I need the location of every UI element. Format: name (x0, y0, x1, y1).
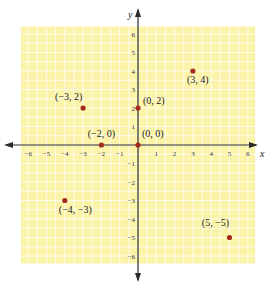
y-tick-label: 6 (132, 31, 136, 39)
y-tick-label: −3 (128, 197, 136, 205)
x-tick-label: 5 (228, 150, 232, 158)
y-tick-label: −4 (128, 216, 136, 224)
point-marker-icon (135, 142, 140, 147)
y-tick-label: −2 (128, 179, 136, 187)
y-tick-label: 4 (132, 68, 136, 76)
point-marker-icon (227, 235, 232, 240)
y-tick-label: −1 (128, 160, 136, 168)
y-tick-label: 5 (132, 49, 136, 57)
point-marker-icon (135, 105, 140, 110)
y-axis-label: y (127, 9, 133, 20)
x-tick-label: −4 (61, 150, 69, 158)
x-tick-label: 1 (155, 150, 159, 158)
y-axis-down-arrow-icon (135, 273, 141, 282)
x-axis-left-arrow-icon (4, 142, 13, 148)
y-tick-label: −6 (128, 253, 136, 261)
point-marker-icon (81, 105, 86, 110)
point-label: (−4, −3) (59, 204, 92, 216)
x-tick-label: −1 (116, 150, 124, 158)
x-axis-label: x (259, 148, 265, 159)
point-label: (3, 4) (187, 74, 209, 86)
coordinate-plane: xy −6−5−4−3−2−1123456−6−5−4−3−2−1123456 … (0, 0, 269, 288)
point-label: (−2, 0) (88, 128, 115, 140)
y-tick-label: 1 (132, 123, 136, 131)
y-axis-up-arrow-icon (135, 8, 141, 17)
point-label: (−3, 2) (55, 91, 82, 103)
y-tick-label: 2 (132, 105, 136, 113)
x-tick-label: −3 (79, 150, 87, 158)
point-marker-icon (99, 142, 104, 147)
y-tick-label: 3 (132, 86, 136, 94)
point-label: (0, 0) (142, 128, 164, 140)
x-tick-label: 2 (173, 150, 177, 158)
y-tick-label: −5 (128, 234, 136, 242)
x-tick-label: 4 (209, 150, 213, 158)
x-tick-label: −2 (98, 150, 106, 158)
point-marker-icon (62, 198, 67, 203)
x-tick-label: −5 (43, 150, 51, 158)
point-label: (0, 2) (143, 95, 165, 107)
x-tick-label: −6 (24, 150, 32, 158)
point-marker-icon (190, 68, 195, 73)
x-tick-label: 3 (191, 150, 195, 158)
x-tick-label: 6 (246, 150, 250, 158)
point-label: (5, −5) (202, 217, 229, 229)
